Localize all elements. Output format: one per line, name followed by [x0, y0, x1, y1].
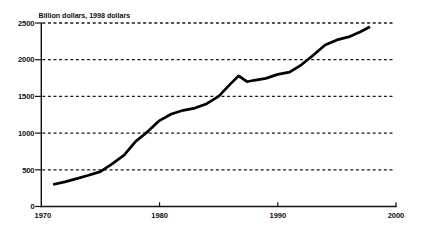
y-tick-label-500: 500 [22, 166, 34, 175]
x-tick-label-2000: 2000 [388, 211, 405, 220]
data-line-real-dollars-line [53, 27, 370, 185]
line-chart-canvas: 050010001500200025001970198019902000Bill… [0, 0, 424, 233]
x-tick-label-1970: 1970 [35, 211, 52, 220]
y-tick-label-1500: 1500 [18, 92, 35, 101]
x-tick-label-1990: 1990 [270, 211, 287, 220]
y-tick-label-2500: 2500 [18, 19, 35, 28]
chart-title: Billion dollars, 1998 dollars [39, 11, 131, 20]
x-tick-label-1980: 1980 [151, 211, 168, 220]
line-chart-figure: 050010001500200025001970198019902000Bill… [0, 0, 424, 233]
y-tick-label-2000: 2000 [18, 55, 35, 64]
y-tick-label-1000: 1000 [18, 129, 35, 138]
